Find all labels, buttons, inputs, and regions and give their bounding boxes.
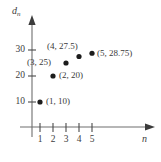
- y-axis-arrowhead: [28, 15, 35, 25]
- data-point-label-4: (4, 27.5): [47, 42, 78, 51]
- x-tick-label-3: 3: [59, 135, 73, 145]
- data-point-marker-5: [89, 51, 94, 56]
- data-point-label-2: (2, 20): [59, 71, 83, 80]
- y-tick-label-20: 20: [0, 71, 25, 81]
- data-point-label-1: (1, 10): [46, 97, 70, 106]
- data-point-label-3: (3, 25): [27, 58, 51, 67]
- x-tick-label-5: 5: [85, 135, 99, 145]
- x-axis-arrowhead: [145, 123, 155, 130]
- data-point-marker-4: [76, 54, 81, 59]
- data-point-marker-1: [37, 99, 42, 104]
- x-tick-label-4: 4: [72, 135, 86, 145]
- x-tick-label-1: 1: [33, 135, 47, 145]
- x-axis-label: n: [142, 134, 147, 144]
- y-tick-label-10: 10: [0, 97, 25, 107]
- y-axis-label-subscript: n: [17, 10, 21, 18]
- data-point-marker-2: [50, 73, 55, 78]
- scatter-plot-figure: dn n 30 20 10 1 2 3 4 5 (1, 10) (2, 20) …: [0, 0, 161, 162]
- x-tick-label-2: 2: [46, 135, 60, 145]
- y-axis-label: dn: [12, 6, 21, 18]
- data-point-marker-3: [63, 60, 68, 65]
- y-tick-label-30: 30: [0, 45, 25, 55]
- data-point-label-5: (5, 28.75): [97, 49, 132, 58]
